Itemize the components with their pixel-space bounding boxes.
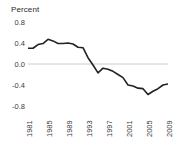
x-axis-tick-label: 2001 [125, 120, 134, 137]
line-chart-svg [28, 22, 168, 106]
x-axis-tick-label: 1981 [25, 120, 34, 137]
plot-area [28, 22, 168, 106]
x-axis-tick-label: 1989 [65, 120, 74, 137]
x-axis-tick-label: 1997 [105, 120, 114, 137]
x-axis-tick-label: 2009 [165, 120, 174, 137]
x-axis-tick-label: 2005 [145, 120, 154, 137]
data-series-line [28, 39, 168, 94]
x-axis-tick-label: 1993 [85, 120, 94, 137]
x-axis-tick-label: 1985 [45, 120, 54, 137]
chart-container: Percent 0.80.40.0-0.4-0.8 19811985198919… [0, 0, 174, 144]
